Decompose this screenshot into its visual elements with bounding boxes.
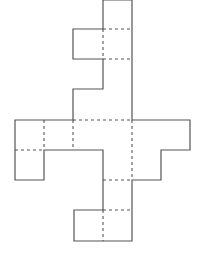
net-diagram bbox=[0, 0, 200, 258]
fold-lines bbox=[15, 29, 132, 241]
